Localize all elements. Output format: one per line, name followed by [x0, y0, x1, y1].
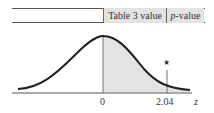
zero-label: 0: [100, 97, 105, 107]
test-stat-label: 2.04: [156, 97, 174, 107]
z-axis-label: z: [194, 97, 198, 107]
normal-curve-diagram: [0, 0, 214, 113]
star-marker: ★: [163, 58, 170, 68]
shaded-area: [103, 36, 190, 92]
